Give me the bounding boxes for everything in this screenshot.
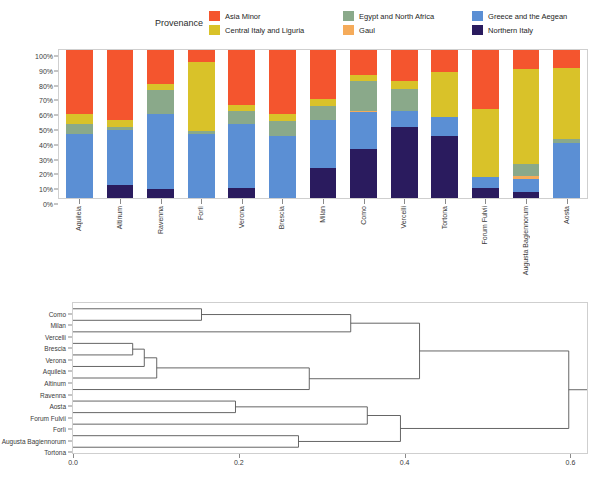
bar-segment[interactable] — [310, 50, 337, 99]
legend-label: Egypt and North Africa — [359, 12, 434, 21]
bar-segment[interactable] — [553, 50, 580, 68]
bar-segment[interactable] — [431, 136, 458, 198]
bar-segment[interactable] — [513, 192, 540, 198]
bar-chart-x-tick-label: Forlì — [197, 206, 204, 220]
bar-chart-x-tick-label: Milan — [319, 206, 326, 223]
bar-segment[interactable] — [391, 111, 418, 127]
bar-segment[interactable] — [553, 143, 580, 198]
dendrogram-leaf-label: Forum Fulvii — [30, 414, 66, 421]
legend-label: Asia Minor — [225, 12, 260, 21]
bar-segment[interactable] — [228, 50, 255, 105]
bar-column[interactable] — [391, 50, 418, 198]
legend: Provenance Asia MinorCentral Italy and L… — [155, 6, 605, 40]
bar-segment[interactable] — [513, 69, 540, 164]
bar-chart-y-tick-label: 50% — [39, 127, 53, 134]
bar-segment[interactable] — [66, 50, 93, 114]
bar-segment[interactable] — [147, 90, 174, 114]
bar-chart-x-tick-mark — [282, 199, 283, 204]
bar-segment[interactable] — [472, 188, 499, 198]
legend-entry[interactable]: Central Italy and Liguria — [209, 25, 339, 36]
bar-segment[interactable] — [310, 99, 337, 106]
bar-segment[interactable] — [391, 50, 418, 81]
dendrogram-leaf-label: Brescia — [44, 345, 66, 352]
legend-entry[interactable]: Asia Minor — [209, 11, 339, 22]
legend-label: Northern Italy — [488, 26, 533, 35]
dendrogram-leaf-label: Augusta Bagiennorum — [2, 437, 66, 444]
bar-column[interactable] — [513, 50, 540, 198]
legend-entry[interactable]: Gaul — [343, 25, 468, 36]
bar-column[interactable] — [228, 50, 255, 198]
bar-segment[interactable] — [188, 50, 215, 62]
bar-chart-y-tick-label: 90% — [39, 67, 53, 74]
legend-entry[interactable]: Northern Italy — [472, 25, 592, 36]
bar-chart-y-tick-label: 40% — [39, 141, 53, 148]
bar-segment[interactable] — [431, 50, 458, 72]
bar-segment[interactable] — [350, 81, 377, 111]
bar-column[interactable] — [350, 50, 377, 198]
bar-chart-x-tick-mark — [120, 199, 121, 204]
bar-segment[interactable] — [513, 179, 540, 192]
bar-column[interactable] — [553, 50, 580, 198]
legend-entry[interactable]: Egypt and North Africa — [343, 11, 468, 22]
dendrogram-leaf-labels: ComoMilanVercelliBresciaVeronaAquileiaAl… — [0, 302, 72, 454]
bar-segment[interactable] — [107, 185, 134, 198]
bar-segment[interactable] — [513, 50, 540, 69]
bar-column[interactable] — [66, 50, 93, 198]
bar-segment[interactable] — [310, 120, 337, 169]
figure-root: Provenance Asia MinorCentral Italy and L… — [0, 0, 605, 490]
bar-segment[interactable] — [66, 114, 93, 124]
bar-column[interactable] — [147, 50, 174, 198]
bar-column[interactable] — [269, 50, 296, 198]
bar-segment[interactable] — [431, 117, 458, 136]
bar-segment[interactable] — [350, 149, 377, 198]
bar-chart-x-tick-mark — [161, 199, 162, 204]
bar-segment[interactable] — [391, 127, 418, 198]
bar-column[interactable] — [472, 50, 499, 198]
bar-segment[interactable] — [431, 72, 458, 116]
legend-entry[interactable]: Greece and the Aegean — [472, 11, 592, 22]
bar-chart-y-tick-label: 20% — [39, 171, 53, 178]
bar-segment[interactable] — [310, 106, 337, 119]
bar-column[interactable] — [188, 50, 215, 198]
bar-column[interactable] — [431, 50, 458, 198]
bar-segment[interactable] — [472, 109, 499, 177]
bar-segment[interactable] — [269, 136, 296, 198]
bar-segment[interactable] — [66, 124, 93, 134]
dendrogram-x-tick-mark — [73, 454, 74, 458]
bar-chart-x-tick-mark — [526, 199, 527, 204]
bar-segment[interactable] — [147, 114, 174, 189]
bar-segment[interactable] — [228, 124, 255, 188]
bar-segment[interactable] — [350, 112, 377, 149]
bar-segment[interactable] — [472, 177, 499, 187]
bar-segment[interactable] — [350, 50, 377, 75]
bar-segment[interactable] — [107, 120, 134, 127]
bar-segment[interactable] — [107, 50, 134, 120]
bar-segment[interactable] — [391, 89, 418, 111]
bar-segment[interactable] — [553, 68, 580, 139]
bar-segment[interactable] — [472, 50, 499, 109]
bar-segment[interactable] — [188, 62, 215, 132]
bar-segment[interactable] — [107, 130, 134, 185]
bar-segment[interactable] — [310, 168, 337, 198]
bar-segment[interactable] — [188, 134, 215, 198]
bar-segment[interactable] — [147, 189, 174, 198]
bar-segment[interactable] — [513, 164, 540, 176]
bar-segment[interactable] — [66, 134, 93, 198]
bar-segment[interactable] — [228, 111, 255, 124]
legend-label: Gaul — [359, 26, 375, 35]
bar-chart-x-tick-label: Ravenna — [157, 206, 164, 234]
bar-segment[interactable] — [269, 121, 296, 136]
bar-segment[interactable] — [147, 50, 174, 84]
bar-segment[interactable] — [269, 114, 296, 121]
bar-chart-x-tick-mark — [445, 199, 446, 204]
bar-column[interactable] — [107, 50, 134, 198]
dendrogram-plot-area — [72, 302, 588, 454]
bar-chart-x-tick-label: Verona — [238, 206, 245, 228]
bar-column[interactable] — [310, 50, 337, 198]
bar-segment[interactable] — [228, 188, 255, 198]
legend-swatch-icon — [343, 11, 354, 21]
bar-segment[interactable] — [391, 81, 418, 88]
dendrogram-leaf-label: Aquileia — [43, 368, 66, 375]
legend-column: Asia MinorCentral Italy and Liguria — [209, 11, 339, 36]
bar-segment[interactable] — [269, 50, 296, 114]
